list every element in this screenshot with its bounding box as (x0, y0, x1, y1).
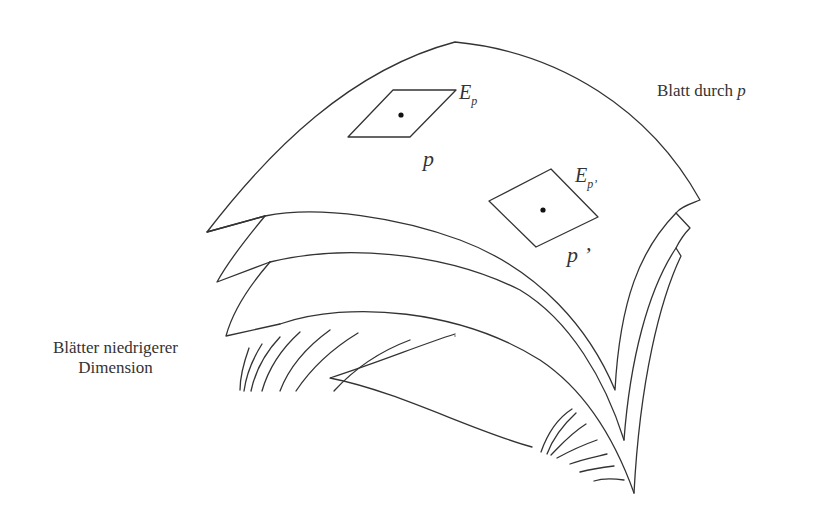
top-leaf (207, 42, 700, 390)
label-lower-dimension-leaves: Blätter niedrigerer Dimension (28, 338, 203, 379)
label-Ep-prime: Ep’ (575, 163, 597, 187)
foliation-diagram (0, 0, 820, 512)
point-p-dot (398, 112, 403, 117)
label-point-p-prime: p ’ (567, 242, 591, 268)
label-leaf-through-p: Blatt durch p (657, 81, 746, 101)
lower-dim-leaves-right (541, 409, 624, 481)
leaf-4 (330, 334, 532, 447)
label-point-p: p (423, 146, 434, 172)
label-Ep: Ep (459, 80, 477, 104)
point-p-prime-dot (540, 207, 545, 212)
